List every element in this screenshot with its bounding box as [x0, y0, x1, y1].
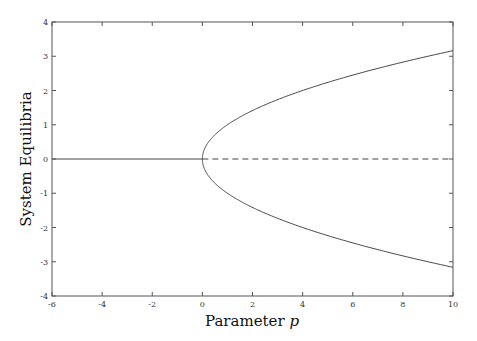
bifurcation-chart: -6-4-20246810-4-3-2-101234 Parameter p S… — [0, 0, 477, 341]
y-tick-label: -1 — [40, 189, 48, 198]
x-tick-label: 0 — [200, 300, 205, 309]
x-tick-label: -2 — [148, 300, 156, 309]
y-tick-label: -2 — [40, 224, 48, 233]
x-tick-label: -6 — [48, 300, 56, 309]
x-tick-label: 8 — [400, 300, 405, 309]
x-tick-label: 10 — [448, 300, 458, 309]
y-tick-label: -4 — [40, 292, 48, 301]
x-axis-title: Parameter p — [205, 312, 299, 330]
x-tick-label: 6 — [350, 300, 355, 309]
y-tick-label: -3 — [40, 258, 48, 267]
tick-labels: -6-4-20246810-4-3-2-101234 — [40, 18, 458, 309]
series-line-2 — [202, 51, 453, 159]
x-tick-label: 2 — [250, 300, 255, 309]
y-tick-label: 3 — [43, 52, 48, 61]
y-tick-label: 4 — [43, 18, 48, 27]
y-tick-label: 2 — [43, 87, 48, 96]
series-line-3 — [202, 159, 453, 267]
x-tick-label: -4 — [98, 300, 106, 309]
y-axis-title: System Equilibria — [17, 91, 35, 227]
x-tick-label: 4 — [300, 300, 305, 309]
y-tick-label: 0 — [43, 155, 48, 164]
y-tick-label: 1 — [43, 121, 48, 130]
plot-area — [52, 51, 453, 268]
